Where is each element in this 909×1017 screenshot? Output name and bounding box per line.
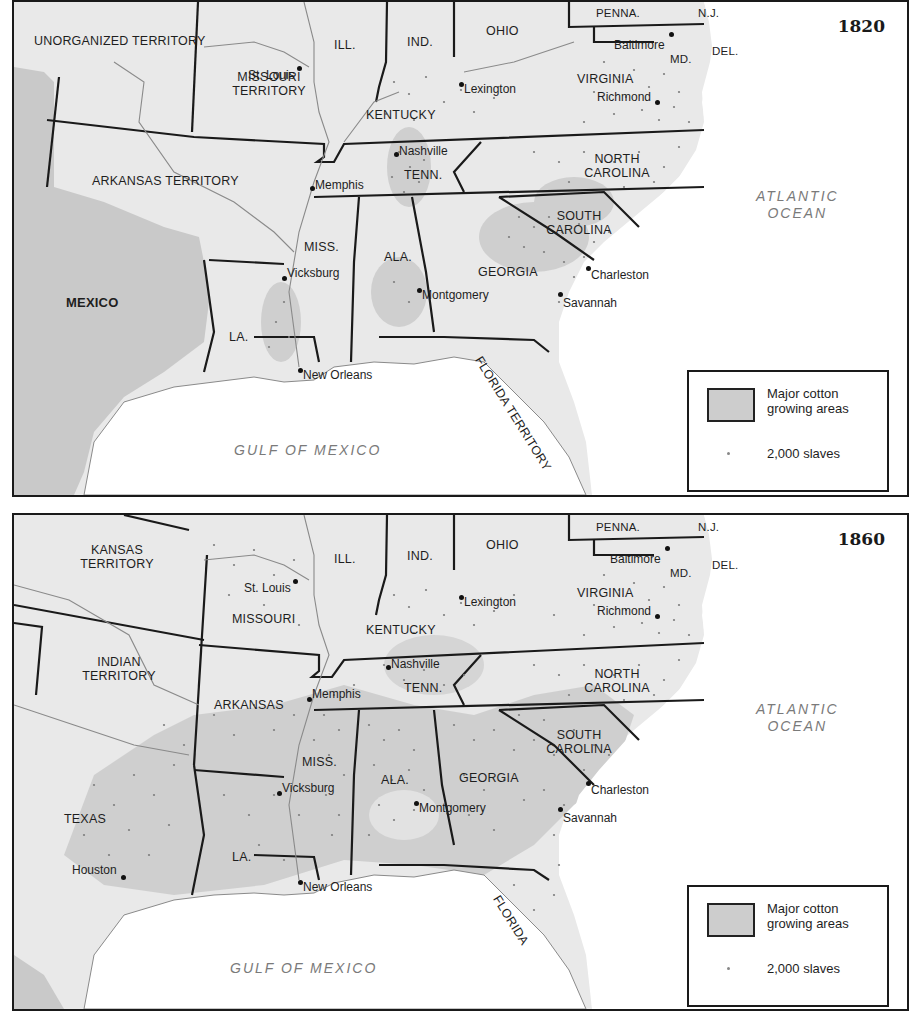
city-baltimore: Baltimore [614, 32, 674, 52]
region-tenn: TENN. [404, 681, 443, 695]
region-indian-territory: INDIAN TERRITORY [74, 655, 164, 683]
map-1820: UNORGANIZED TERRITORY MISSOURI TERRITORY… [12, 0, 909, 497]
region-tenn: TENN. [404, 168, 443, 182]
region-virginia: VIRGINIA [577, 586, 633, 600]
region-ala: ALA. [381, 773, 409, 787]
region-miss: MISS. [304, 240, 339, 254]
region-south-carolina: SOUTH CAROLINA [539, 728, 619, 756]
city-vicksburg: Vicksburg [277, 781, 334, 796]
region-penna: PENNA. [596, 520, 640, 534]
city-montgomery: Montgomery [417, 288, 489, 302]
region-ohio: OHIO [486, 538, 519, 552]
region-del: DEL. [712, 44, 738, 58]
label-atlantic-ocean: ATLANTICOCEAN [756, 701, 839, 735]
city-new-orleans: New Orleans [298, 368, 372, 382]
city-baltimore: Baltimore [610, 546, 670, 566]
legend-cotton-label: Major cottongrowing areas [767, 901, 849, 931]
city-charleston: Charleston [586, 781, 649, 797]
city-richmond: Richmond [597, 90, 660, 105]
region-mexico: MEXICO [66, 296, 118, 310]
region-virginia: VIRGINIA [577, 72, 633, 86]
city-charleston: Charleston [586, 266, 649, 282]
city-savannah: Savannah [558, 807, 617, 825]
region-texas: TEXAS [64, 812, 106, 826]
city-lexington: Lexington [459, 595, 516, 609]
region-miss: MISS. [302, 755, 337, 769]
slave-dot-symbol [727, 452, 730, 455]
region-kansas-territory: KANSAS TERRITORY [72, 543, 162, 571]
region-north-carolina: NORTH CAROLINA [577, 667, 657, 695]
legend-cotton-label: Major cottongrowing areas [767, 386, 849, 416]
region-north-carolina: NORTH CAROLINA [577, 152, 657, 180]
region-nj: N.J. [698, 520, 719, 534]
city-st-louis: St. Louis [244, 579, 298, 595]
legend-slaves-label: 2,000 slaves [767, 961, 840, 976]
region-arkansas-territory: ARKANSAS TERRITORY [92, 174, 239, 188]
city-savannah: Savannah [558, 292, 617, 310]
city-montgomery: Montgomery [414, 801, 486, 815]
region-la: LA. [229, 330, 248, 344]
city-memphis: Memphis [307, 687, 361, 702]
map-year: 1820 [838, 16, 885, 36]
region-ohio: OHIO [486, 24, 519, 38]
region-la: LA. [232, 850, 251, 864]
city-richmond: Richmond [597, 604, 660, 619]
region-unorganized-territory: UNORGANIZED TERRITORY [34, 34, 206, 48]
region-georgia: GEORGIA [478, 265, 538, 279]
city-vicksburg: Vicksburg [282, 266, 339, 281]
label-atlantic-ocean: ATLANTICOCEAN [756, 188, 839, 222]
region-ind: IND. [407, 35, 433, 49]
region-kentucky: KENTUCKY [366, 623, 436, 637]
map-1860: KANSAS TERRITORY INDIAN TERRITORY MISSOU… [12, 513, 909, 1011]
region-arkansas: ARKANSAS [214, 698, 284, 712]
region-south-carolina: SOUTH CAROLINA [539, 209, 619, 237]
legend-slaves-label: 2,000 slaves [767, 446, 840, 461]
region-del: DEL. [712, 558, 738, 572]
region-ind: IND. [407, 549, 433, 563]
cotton-area-swatch [707, 903, 755, 937]
slave-dot-symbol [727, 967, 730, 970]
city-houston: Houston [72, 863, 126, 880]
city-st-louis: St. Louis [248, 66, 302, 82]
map-year: 1860 [838, 529, 885, 549]
legend: Major cottongrowing areas 2,000 slaves [687, 370, 889, 492]
region-ill: ILL. [334, 552, 356, 566]
city-nashville: Nashville [394, 144, 448, 158]
region-md: MD. [670, 52, 692, 66]
region-missouri: MISSOURI [232, 612, 295, 626]
region-ill: ILL. [334, 38, 356, 52]
city-new-orleans: New Orleans [298, 880, 372, 894]
region-penna: PENNA. [596, 6, 640, 20]
region-nj: N.J. [698, 6, 719, 20]
region-ala: ALA. [384, 250, 412, 264]
label-gulf-of-mexico: GULF OF MEXICO [234, 442, 381, 459]
region-kentucky: KENTUCKY [366, 108, 436, 122]
region-georgia: GEORGIA [459, 771, 519, 785]
cotton-area-swatch [707, 388, 755, 422]
label-gulf-of-mexico: GULF OF MEXICO [230, 960, 377, 977]
city-lexington: Lexington [459, 82, 516, 96]
region-md: MD. [670, 566, 692, 580]
legend: Major cottongrowing areas 2,000 slaves [687, 885, 889, 1007]
city-memphis: Memphis [310, 178, 364, 192]
city-nashville: Nashville [386, 657, 440, 671]
